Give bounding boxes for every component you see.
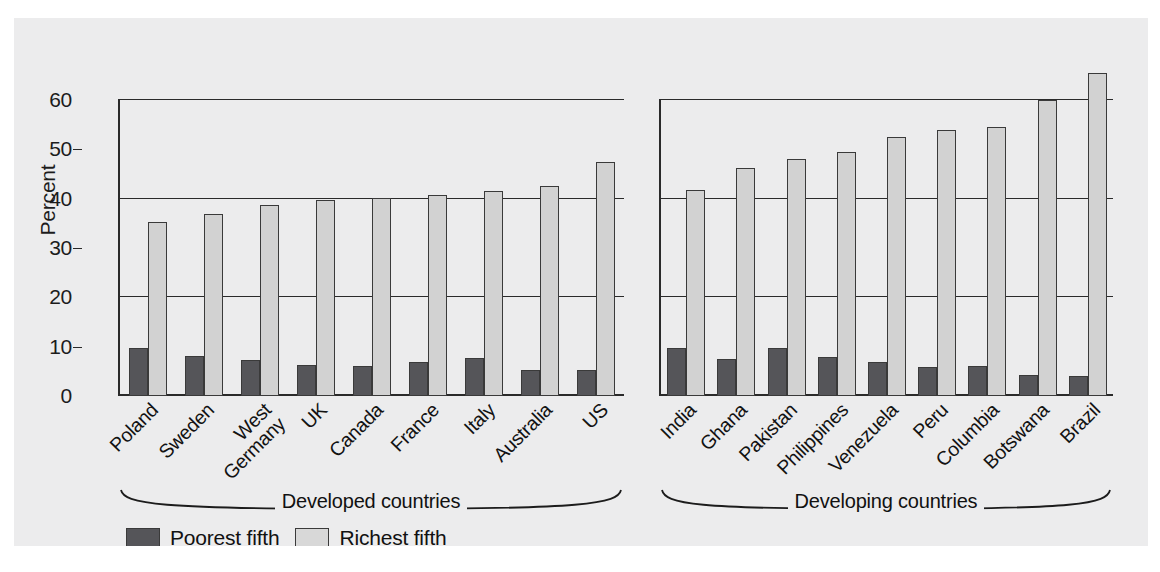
y-tick-label-50: 50 [14,137,72,161]
bar-richest-botswana[interactable] [1038,100,1057,396]
bar-poorest-venezuela[interactable] [868,362,887,396]
bar-poorest-italy[interactable] [465,358,484,396]
bar-group-france[interactable] [400,100,456,396]
panel-left-bars [120,100,624,396]
bar-poorest-pakistan[interactable] [768,348,787,396]
bar-richest-peru[interactable] [937,130,956,396]
y-tick-mark-30 [73,248,82,249]
legend-label: Richest fifth [339,526,446,546]
bar-poorest-canada[interactable] [353,366,372,396]
bar-poorest-columbia[interactable] [968,366,987,396]
bar-group-italy[interactable] [456,100,512,396]
bar-richest-ghana[interactable] [736,168,755,396]
bar-group-philippines[interactable] [812,100,862,396]
y-tick-label-10: 10 [14,335,72,359]
bar-richest-canada[interactable] [372,198,391,396]
group-caption-developed: Developed countries [118,490,624,513]
bar-group-us[interactable] [568,100,624,396]
bar-group-poland[interactable] [120,100,176,396]
panel-developing [659,100,1113,396]
legend-item-poorest-fifth[interactable]: Poorest fifth [126,526,279,546]
bar-group-brazil[interactable] [1063,100,1113,396]
y-tick-label-0: 0 [14,384,72,408]
bar-group-venezuela[interactable] [862,100,912,396]
x-tick-label-india: India [657,400,700,443]
y-tick-mark-10 [73,347,82,348]
group-brace-developing: Developing countries [659,488,1113,528]
bar-richest-france[interactable] [428,195,447,396]
bar-poorest-india[interactable] [667,348,686,396]
panel-right-bars [661,100,1113,396]
x-labels-developing: IndiaGhanaPakistanPhilippinesVenezuelaPe… [659,400,1113,496]
y-tick-label-30: 30 [14,236,72,260]
legend-item-richest-fifth[interactable]: Richest fifth [295,526,446,546]
bar-group-pakistan[interactable] [761,100,811,396]
bar-group-uk[interactable] [288,100,344,396]
bar-richest-italy[interactable] [484,191,503,396]
bar-richest-sweden[interactable] [204,214,223,396]
bar-richest-philippines[interactable] [837,152,856,396]
bar-richest-west-germany[interactable] [260,205,279,396]
y-tick-label-60: 60 [14,88,72,112]
legend-swatch [126,528,160,547]
bar-richest-poland[interactable] [148,222,167,396]
bar-poorest-west-germany[interactable] [241,360,260,396]
x-tick-label-west-germany: WestGermany [205,400,288,483]
bar-poorest-france[interactable] [409,362,428,396]
legend-swatch [295,528,329,547]
y-tick-label-20: 20 [14,285,72,309]
group-brace-developed: Developed countries [118,488,624,528]
bar-poorest-uk[interactable] [297,365,316,396]
bar-richest-india[interactable] [686,190,705,396]
x-tick-label-us: US [579,400,612,433]
bar-poorest-sweden[interactable] [185,356,204,396]
bar-group-india[interactable] [661,100,711,396]
chart-figure: Percent 0102030405060 PolandSwedenWestGe… [14,18,1148,546]
bar-poorest-philippines[interactable] [818,357,837,396]
x-tick-label-uk: UK [298,400,331,433]
bar-poorest-brazil[interactable] [1069,376,1088,396]
bar-richest-uk[interactable] [316,200,335,396]
bar-poorest-australia[interactable] [521,370,540,396]
bar-poorest-ghana[interactable] [717,359,736,396]
y-axis: Percent 0102030405060 [14,18,118,478]
bar-richest-columbia[interactable] [987,127,1006,396]
panel-developed [118,100,624,396]
chart-legend: Poorest fifthRichest fifth [126,526,447,546]
bar-group-sweden[interactable] [176,100,232,396]
bar-poorest-peru[interactable] [918,367,937,396]
x-tick-label-peru: Peru [910,400,952,442]
legend-label: Poorest fifth [170,526,279,546]
y-tick-mark-50 [73,149,82,150]
bar-poorest-botswana[interactable] [1019,375,1038,396]
x-tick-label-france: France [388,400,444,456]
bar-group-canada[interactable] [344,100,400,396]
bar-richest-australia[interactable] [540,186,559,396]
bar-group-botswana[interactable] [1013,100,1063,396]
x-tick-label-italy: Italy [461,400,499,438]
bar-group-australia[interactable] [512,100,568,396]
x-tick-label-canada: Canada [326,400,387,461]
bar-richest-brazil[interactable] [1088,73,1107,396]
bar-group-west-germany[interactable] [232,100,288,396]
bar-group-peru[interactable] [912,100,962,396]
bar-group-columbia[interactable] [962,100,1012,396]
x-tick-label-australia: Australia [490,400,556,466]
bar-richest-us[interactable] [596,162,615,396]
x-tick-label-brazil: Brazil [1057,400,1104,447]
group-caption-developing: Developing countries [659,490,1113,513]
y-tick-label-40: 40 [14,187,72,211]
bar-richest-venezuela[interactable] [887,137,906,396]
bar-poorest-us[interactable] [577,370,596,396]
bar-group-ghana[interactable] [711,100,761,396]
bar-poorest-poland[interactable] [129,348,148,396]
bar-richest-pakistan[interactable] [787,159,806,396]
x-labels-developed: PolandSwedenWestGermanyUKCanadaFranceIta… [118,400,624,496]
